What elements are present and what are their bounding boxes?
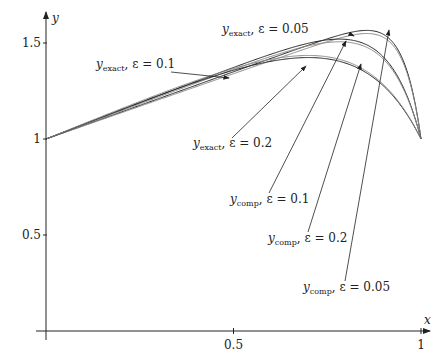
y-tick-label: 1 (33, 132, 41, 146)
annotation-label-3: ycomp, ε = 0.1 (229, 192, 309, 208)
x-tick-label: 0.5 (224, 338, 243, 352)
annotation-arrow (232, 66, 306, 138)
annotation-arrow (269, 41, 346, 193)
plot-area: xy0.510.511.5 yexact, ε = 0.05yexact, ε … (0, 0, 448, 363)
annotation-label-4: ycomp, ε = 0.2 (267, 231, 347, 247)
x-tick-label: 1 (417, 338, 425, 352)
annotation-arrow (345, 30, 389, 281)
annotation-label-5: ycomp, ε = 0.05 (302, 280, 390, 296)
series-line-2 (46, 39, 421, 139)
series-line-1 (46, 34, 421, 139)
annotation-label-1: yexact, ε = 0.1 (95, 57, 175, 73)
y-tick-label: 1.5 (22, 36, 41, 50)
annotation-arrow (308, 64, 361, 232)
chart: xy0.510.511.5 yexact, ε = 0.05yexact, ε … (0, 0, 448, 363)
x-axis-label: x (424, 313, 431, 327)
annotation-label-0: yexact, ε = 0.05 (221, 22, 309, 38)
axes: xy0.510.511.5 (22, 11, 431, 352)
curves (46, 30, 421, 139)
y-axis-label: y (51, 11, 59, 25)
y-tick-label: 0.5 (22, 228, 41, 242)
annotation-label-2: yexact, ε = 0.2 (192, 136, 272, 152)
